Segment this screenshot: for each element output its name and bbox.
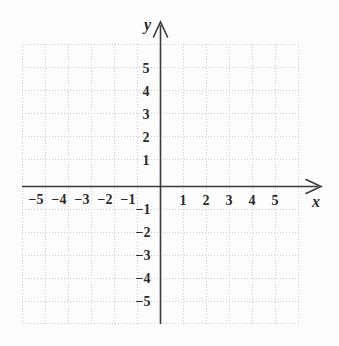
y-tick-label--1: −1 (132, 203, 154, 217)
x-tick-label-3: 3 (222, 194, 236, 208)
y-tick-label-4: 4 (139, 85, 153, 99)
y-tick-label-2: 2 (139, 131, 153, 145)
x-tick-label-4: 4 (245, 194, 259, 208)
x-axis-label: x (312, 194, 320, 210)
x-tick-label--5: −5 (25, 193, 47, 207)
coordinate-plane-canvas (0, 0, 339, 346)
x-tick-label--2: −2 (94, 193, 116, 207)
y-tick-label--3: −3 (132, 249, 154, 263)
x-tick-label--4: −4 (48, 193, 70, 207)
coordinate-plane-figure: −5 −4 −3 −2 −1 1 2 3 4 5 5 4 3 2 1 −1 −2… (0, 0, 339, 346)
x-tick-label--3: −3 (71, 193, 93, 207)
y-tick-label--4: −4 (132, 272, 154, 286)
x-tick-label-5: 5 (268, 194, 282, 208)
x-axis-line (22, 180, 321, 194)
y-tick-label--2: −2 (132, 226, 154, 240)
y-axis-label: y (144, 17, 151, 33)
x-tick-label-1: 1 (176, 194, 190, 208)
y-tick-label-5: 5 (139, 62, 153, 76)
x-tick-label-2: 2 (199, 194, 213, 208)
y-tick-label--5: −5 (132, 295, 154, 309)
y-tick-label-3: 3 (139, 108, 153, 122)
y-axis-line (154, 22, 168, 324)
y-tick-label-1: 1 (139, 154, 153, 168)
